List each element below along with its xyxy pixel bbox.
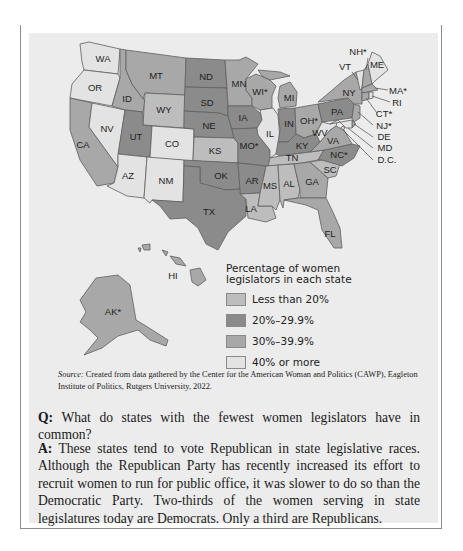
- state-label-sc: SC: [323, 164, 336, 175]
- state-label-wy: WY: [156, 104, 172, 115]
- legend-item-30to40: 30%–39.9%: [226, 334, 396, 348]
- answer: A: These states tend to vote Republican …: [38, 440, 420, 527]
- state-label-ca: CA: [76, 139, 90, 150]
- state-label-al: AL: [283, 178, 295, 189]
- map-legend: Percentage of women legislators in each …: [226, 263, 396, 369]
- source-note: Source: Created from data gathered by th…: [58, 369, 418, 392]
- legend-label: Less than 20%: [252, 293, 329, 305]
- answer-prefix: A:: [38, 441, 52, 456]
- state-label-md: MD: [378, 142, 393, 153]
- state-label-ga: GA: [305, 176, 319, 187]
- state-label-ky: KY: [296, 140, 309, 151]
- state-label-sd: SD: [200, 97, 213, 108]
- state-label-az: AZ: [122, 170, 134, 181]
- state-label-ak: AK*: [105, 306, 122, 317]
- state-label-la: LA: [245, 203, 257, 214]
- state-label-mo: MO*: [240, 140, 259, 151]
- state-ri: [369, 92, 373, 99]
- state-label-va: VA: [327, 135, 340, 146]
- state-label-wi: WI*: [252, 86, 268, 97]
- state-label-ct: CT*: [376, 108, 393, 119]
- state-label-ia: IA: [239, 112, 249, 123]
- state-label-mn: MN: [232, 78, 247, 89]
- source-prefix: Source:: [58, 370, 84, 379]
- state-label-nm: NM: [159, 175, 174, 186]
- state-label-mi: MI: [284, 92, 295, 103]
- state-label-nj: NJ*: [376, 120, 392, 131]
- state-label-ma: MA*: [389, 85, 407, 96]
- state-label-hi: HI: [168, 270, 178, 281]
- state-label-de: DE: [377, 131, 390, 142]
- state-label-nh: NH*: [349, 46, 367, 57]
- legend-swatch: [226, 293, 246, 306]
- state-label-ms: MS: [263, 180, 277, 191]
- state-label-tx: TX: [203, 206, 216, 217]
- legend-swatch: [226, 314, 246, 327]
- state-label-il: IL: [266, 128, 274, 139]
- state-label-pa: PA: [331, 106, 344, 117]
- state-label-id: ID: [122, 93, 132, 104]
- state-label-ok: OK: [214, 170, 228, 181]
- state-label-co: CO: [165, 138, 179, 149]
- question-text: What do states with the fewest women leg…: [38, 410, 420, 442]
- state-label-fl: FL: [324, 228, 335, 239]
- legend-title: Percentage of women legislators in each …: [226, 263, 396, 285]
- question: Q: What do states with the fewest women …: [38, 409, 420, 444]
- state-label-ar: AR: [245, 175, 258, 186]
- legend-item-20to30: 20%–29.9%: [226, 313, 396, 327]
- state-label-nd: ND: [199, 71, 213, 82]
- state-label-ut: UT: [130, 131, 143, 142]
- legend-swatch: [226, 356, 246, 369]
- state-label-ri: RI: [392, 97, 402, 108]
- state-label-ne: NE: [202, 120, 215, 131]
- state-label-oh: OH*: [300, 115, 318, 126]
- state-label-mt: MT: [149, 70, 163, 81]
- state-ak: [80, 275, 168, 355]
- source-text: Created from data gathered by the Center…: [58, 370, 418, 391]
- state-dc: [341, 126, 344, 129]
- state-label-in: IN: [284, 118, 294, 129]
- state-label-wa: WA: [96, 53, 112, 64]
- state-ct: [362, 92, 369, 101]
- answer-text: These states tend to vote Republican in …: [38, 441, 420, 526]
- legend-item-lt20: Less than 20%: [226, 292, 396, 306]
- state-label-nv: NV: [100, 123, 114, 134]
- question-prefix: Q:: [38, 410, 53, 425]
- legend-item-ge40: 40% or more: [226, 355, 396, 369]
- state-label-vt: VT: [339, 61, 351, 72]
- state-label-nc: NC*: [330, 149, 348, 160]
- state-label-ks: KS: [209, 145, 222, 156]
- state-label-ny: NY: [342, 87, 356, 98]
- legend-label: 20%–29.9%: [252, 314, 314, 326]
- state-label-me: ME: [370, 59, 384, 70]
- legend-label: 40% or more: [252, 356, 320, 368]
- state-label-dc: D.C.: [378, 154, 397, 165]
- state-label-tn: TN: [286, 152, 299, 163]
- state-label-or: OR: [88, 82, 102, 93]
- state-fl: [284, 198, 342, 248]
- legend-swatch: [226, 335, 246, 348]
- legend-label: 30%–39.9%: [252, 335, 314, 347]
- state-label-wv: WV: [312, 127, 328, 138]
